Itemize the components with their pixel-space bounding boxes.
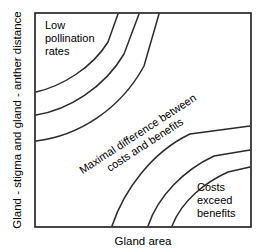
annotation-costs-exceed-line-1: Costs — [197, 181, 226, 193]
y-axis-label: Gland - stigma and gland - anther distan… — [11, 11, 23, 228]
annotation-low-pollination-line-1: Low — [45, 19, 65, 31]
x-axis-label: Gland area — [115, 235, 173, 247]
annotation-costs-exceed-line-3: benefits — [197, 207, 236, 219]
annotation-low-pollination-line-2: pollination — [45, 32, 95, 44]
annotation-low-pollination-line-3: rates — [45, 45, 70, 57]
annotation-costs-exceed-line-2: exceed — [197, 194, 232, 206]
diagram-canvas: Low pollination rates Maximal difference… — [0, 0, 267, 252]
figure-container: Low pollination rates Maximal difference… — [0, 0, 267, 252]
